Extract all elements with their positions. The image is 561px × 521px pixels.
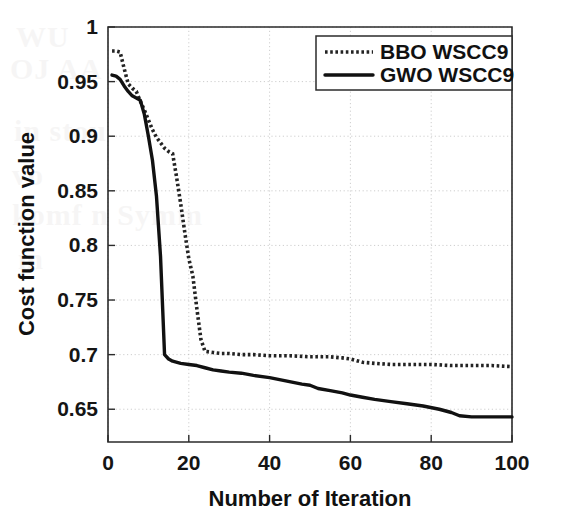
legend-label: GWO WSCC9 xyxy=(380,63,514,86)
x-axis-title: Number of Iteration xyxy=(209,486,412,511)
series-line-bbo-wscc9 xyxy=(112,51,512,367)
x-tick-label: 60 xyxy=(339,451,362,474)
x-tick-label: 20 xyxy=(177,451,200,474)
y-tick-label: 0.7 xyxy=(69,343,98,366)
x-tick-label: 100 xyxy=(494,451,529,474)
y-tick-marks xyxy=(108,27,115,409)
y-tick-label: 0.65 xyxy=(57,397,98,420)
y-tick-label: 1 xyxy=(86,15,98,38)
x-tick-label: 80 xyxy=(420,451,443,474)
y-tick-label: 0.95 xyxy=(57,70,98,93)
y-axis-title: Cost function value xyxy=(14,132,39,336)
chart-page: WU OJ AA in stou vo komf n Symm m 0.650.… xyxy=(0,0,561,521)
x-tick-label: 0 xyxy=(102,451,114,474)
y-tick-label: 0.85 xyxy=(57,179,98,202)
x-tick-marks xyxy=(108,435,512,442)
y-tick-labels: 0.650.70.750.80.850.90.951 xyxy=(57,15,98,420)
cost-function-convergence-chart: 0.650.70.750.80.850.90.951 020406080100 … xyxy=(0,0,561,521)
chart-legend: BBO WSCC9GWO WSCC9 xyxy=(316,36,514,90)
x-tick-label: 40 xyxy=(258,451,281,474)
legend-label: BBO WSCC9 xyxy=(380,40,508,63)
data-series xyxy=(112,51,512,417)
y-tick-label: 0.75 xyxy=(57,288,98,311)
y-tick-label: 0.9 xyxy=(69,124,98,147)
y-tick-label: 0.8 xyxy=(69,233,99,256)
x-tick-labels: 020406080100 xyxy=(102,451,529,474)
